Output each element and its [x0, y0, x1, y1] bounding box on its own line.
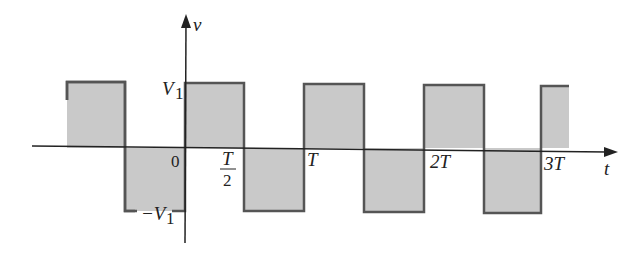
v1-label: V [162, 78, 176, 99]
t-axis-arrow-icon [604, 147, 618, 157]
v1-subscript: 1 [175, 84, 184, 103]
neg-v1-subscript: 1 [166, 209, 175, 228]
origin-label: 0 [171, 152, 180, 171]
2T-label: 2T [430, 151, 452, 172]
half-T-denominator: 2 [223, 171, 232, 190]
v-axis-arrow-icon [181, 14, 191, 28]
v-axis-label: v [193, 14, 202, 35]
3T-label: 3T [543, 153, 566, 174]
half-T-numerator: T [222, 148, 234, 169]
t-axis-label: t [604, 158, 610, 179]
T-label: T [307, 149, 319, 170]
square-wave-diagram: v t V 1 −V 1 0 T 2 T 2T 3T [0, 0, 638, 256]
v-axis [185, 22, 186, 243]
neg-v1-label: −V [141, 203, 168, 224]
